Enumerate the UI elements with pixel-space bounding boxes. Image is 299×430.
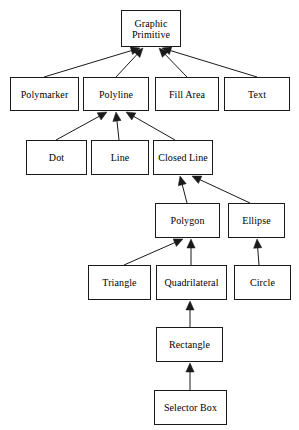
edge-line	[198, 179, 250, 203]
class-node-label: Polygon	[168, 215, 206, 226]
class-node-label: Selector Box	[162, 402, 219, 413]
class-node-text[interactable]: Text	[224, 77, 290, 111]
class-node-label: Text	[246, 89, 268, 100]
class-node-graphic-primitive[interactable]: Graphic Primitive	[121, 10, 181, 47]
class-node-label: Graphic Primitive	[130, 18, 172, 40]
class-node-rectangle[interactable]: Rectangle	[156, 327, 223, 362]
edge-line	[164, 53, 187, 77]
class-node-selector-box[interactable]: Selector Box	[154, 390, 227, 425]
edge-line	[258, 246, 259, 265]
diagram-canvas: Graphic PrimitivePolymarkerPolylineFill …	[0, 0, 299, 430]
class-node-label: Quadrilateral	[162, 277, 220, 288]
arrowhead-icon	[254, 239, 262, 248]
class-node-label: Triangle	[100, 277, 138, 288]
inheritance-edge-line-to-polyline	[113, 112, 121, 140]
inheritance-edge-fill-area-to-graphic-primitive	[159, 48, 187, 77]
edge-line	[124, 242, 177, 265]
class-node-label: Closed Line	[156, 152, 210, 163]
class-node-label: Dot	[47, 152, 66, 163]
class-node-dot[interactable]: Dot	[26, 140, 87, 175]
class-node-label: Circle	[248, 277, 277, 288]
class-node-label: Rectangle	[167, 339, 212, 350]
class-node-line[interactable]: Line	[91, 140, 149, 175]
class-node-closed-line[interactable]: Closed Line	[153, 140, 213, 175]
inheritance-edge-closed-line-to-polyline	[126, 112, 175, 140]
class-node-label: Polyline	[97, 89, 135, 100]
arrowhead-icon	[186, 363, 194, 372]
arrowhead-icon	[186, 301, 194, 310]
arrowhead-icon	[134, 48, 143, 57]
inheritance-edge-polyline-to-graphic-primitive	[116, 48, 143, 77]
arrowhead-icon	[187, 239, 195, 248]
edge-line	[44, 50, 133, 77]
inheritance-edge-polygon-to-closed-line	[178, 176, 187, 203]
arrowhead-icon	[159, 48, 168, 57]
arrowhead-icon	[113, 112, 121, 121]
class-node-label: Line	[109, 152, 132, 163]
arrowhead-icon	[178, 176, 186, 186]
inheritance-edge-ellipse-to-closed-line	[192, 176, 250, 203]
class-node-label: Fill Area	[167, 89, 207, 100]
arrowhead-icon	[173, 239, 183, 247]
arrowhead-icon	[192, 176, 202, 184]
class-node-label: Polymarker	[19, 89, 71, 100]
class-node-circle[interactable]: Circle	[234, 265, 291, 300]
inheritance-edge-polymarker-to-graphic-primitive	[44, 47, 140, 77]
inheritance-edge-dot-to-polyline	[56, 112, 107, 140]
inheritance-edge-selector-box-to-rectangle	[186, 363, 194, 390]
class-node-triangle[interactable]: Triangle	[88, 265, 151, 300]
edge-line	[116, 53, 138, 77]
class-node-fill-area[interactable]: Fill Area	[155, 77, 219, 111]
inheritance-edge-circle-to-ellipse	[254, 239, 262, 265]
edge-line	[182, 183, 187, 203]
inheritance-edge-triangle-to-polygon	[124, 239, 183, 265]
class-node-polymarker[interactable]: Polymarker	[10, 77, 79, 111]
arrowhead-icon	[130, 47, 140, 55]
inheritance-edge-rectangle-to-quadrilateral	[186, 301, 194, 327]
inheritance-edge-quadrilateral-to-polygon	[187, 239, 195, 265]
class-node-ellipse[interactable]: Ellipse	[228, 203, 285, 238]
edge-line	[169, 50, 257, 77]
class-node-polygon[interactable]: Polygon	[155, 203, 220, 238]
class-node-polyline[interactable]: Polyline	[83, 77, 149, 111]
edge-line	[132, 115, 175, 140]
class-node-label: Ellipse	[240, 215, 272, 226]
inheritance-edge-text-to-graphic-primitive	[162, 47, 257, 77]
arrowhead-icon	[97, 112, 107, 120]
edge-line	[117, 119, 119, 140]
class-node-quadrilateral[interactable]: Quadrilateral	[156, 265, 227, 300]
arrowhead-icon	[162, 47, 172, 55]
edge-line	[56, 115, 101, 140]
arrowhead-icon	[126, 112, 136, 120]
